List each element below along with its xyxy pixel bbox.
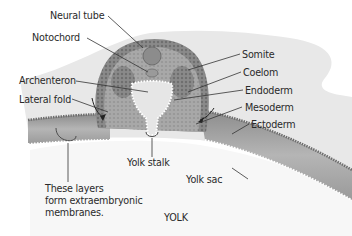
somite-right — [170, 66, 194, 98]
notochord — [146, 69, 158, 77]
label-coelom: Coelom — [243, 67, 278, 78]
label-endoderm: Endoderm — [245, 85, 293, 96]
label-notochord: Notochord — [32, 32, 80, 43]
neural-tube — [143, 47, 161, 65]
label-yolk-sac: Yolk sac — [185, 174, 222, 185]
note-line-1: These layers — [44, 183, 104, 194]
label-somite: Somite — [242, 49, 275, 60]
label-yolk-stalk: Yolk stalk — [126, 157, 170, 168]
label-yolk: YOLK — [163, 212, 189, 223]
label-archenteron: Archenteron — [19, 75, 76, 86]
label-ectoderm: Ectoderm — [251, 119, 295, 130]
note-line-2: form extraembryonic — [45, 195, 142, 206]
label-neural-tube: Neural tube — [50, 10, 105, 21]
embryo-cross-section-diagram: Neural tube Notochord Somite Coelom Arch… — [0, 0, 352, 236]
note-line-3: membranes. — [45, 207, 104, 218]
label-lateral-fold: Lateral fold — [19, 94, 71, 105]
label-mesoderm: Mesoderm — [245, 102, 294, 113]
